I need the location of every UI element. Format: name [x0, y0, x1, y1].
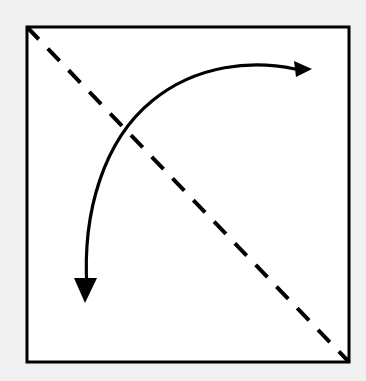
fold-diagram-canvas [0, 0, 366, 381]
fold-diagram-svg [0, 0, 366, 381]
